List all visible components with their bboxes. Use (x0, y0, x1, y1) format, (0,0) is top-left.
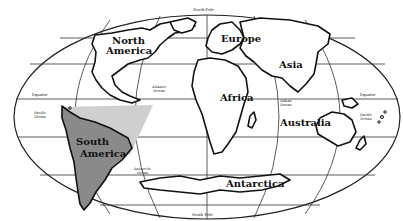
europe-label: Europe (221, 34, 261, 44)
antarctica-label: Antarctica (226, 179, 284, 189)
north-pole-label: North Pole (193, 8, 214, 12)
africa-label: Africa (220, 93, 254, 103)
indian-ocean-label-line2: Ocean (280, 104, 292, 108)
asia-label: Asia (279, 60, 303, 70)
antarctic-ocean-label: Antarctic Ocean (134, 168, 151, 176)
world-map (0, 0, 403, 221)
australia-label: Australia (280, 118, 331, 128)
equator-east-label: Equator (360, 93, 376, 97)
pacific-ocean-west-label-line2: Ocean (34, 116, 46, 120)
pacific-ocean-east-label-line2: Ocean (360, 118, 372, 122)
atlantic-ocean-label-line2: Ocean (152, 90, 166, 94)
south-america-label-line1: South (76, 137, 109, 147)
indian-ocean-label: Indian Ocean (280, 100, 292, 108)
antarctic-ocean-label-line2: Ocean (134, 172, 151, 176)
north-america-label-line2: America (106, 46, 152, 56)
south-pole-label: South Pole (192, 213, 213, 217)
equator-west-label: Equator (32, 93, 48, 97)
pacific-ocean-east-label: Pacific Ocean (360, 114, 372, 122)
atlantic-ocean-label: Atlantic Ocean (152, 86, 166, 94)
south-america-label-line2: America (80, 149, 126, 159)
pacific-ocean-west-label: Pacific Ocean (34, 112, 46, 120)
